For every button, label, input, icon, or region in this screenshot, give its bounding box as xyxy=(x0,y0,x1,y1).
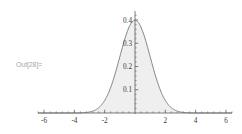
x-tick-label: -2 xyxy=(102,117,108,125)
y-tick-label: 0.1 xyxy=(123,86,132,94)
y-tick-label: 0.4 xyxy=(123,17,132,25)
x-tick-label: 2 xyxy=(164,117,168,125)
x-tick-label: 4 xyxy=(194,117,198,125)
x-tick-label: -6 xyxy=(41,117,47,125)
y-tick-label: 0.2 xyxy=(123,63,132,71)
x-tick-label: 6 xyxy=(224,117,228,125)
gaussian-plot[interactable]: -6-4-22460.10.20.30.4 xyxy=(30,4,236,130)
notebook-output-cell: Out[28]= -6-4-22460.10.20.30.4 xyxy=(0,0,242,134)
y-tick-label: 0.3 xyxy=(123,40,132,48)
plot-axes xyxy=(38,11,232,114)
plot-canvas: -6-4-22460.10.20.30.4 xyxy=(30,4,236,130)
x-tick-label: -4 xyxy=(71,117,77,125)
